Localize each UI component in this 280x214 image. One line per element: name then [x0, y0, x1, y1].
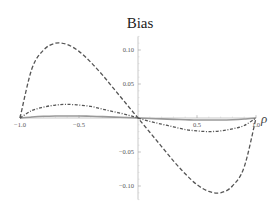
x-tick-label: −0.5 [73, 121, 85, 128]
x-axis-label: ρ [260, 111, 267, 126]
x-tick-label: 1.0 [252, 121, 260, 128]
y-tick-label: −0.05 [119, 148, 134, 155]
chart-title: Bias [127, 15, 154, 31]
x-tick-label: −1.0 [14, 121, 26, 128]
x-tick-label: 0.5 [193, 121, 201, 128]
y-tick-label: 0.10 [123, 46, 134, 53]
bias-chart: Bias −1.0−0.50.51.00.100.05−0.05−0.10 ρ [0, 0, 280, 214]
y-tick-label: 0.05 [123, 80, 134, 87]
y-tick-label: −0.10 [119, 182, 134, 189]
